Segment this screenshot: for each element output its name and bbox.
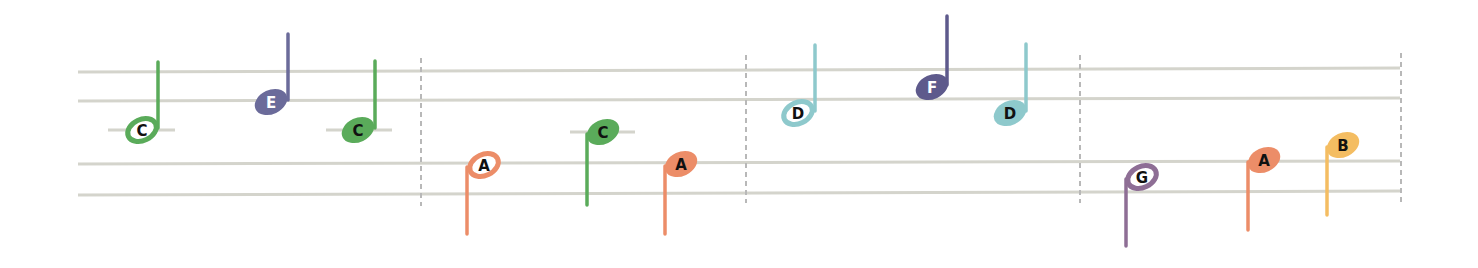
note-letter-label: C	[597, 124, 608, 142]
note-E-quarter: E	[251, 34, 292, 120]
note-letter-label: B	[1337, 137, 1348, 155]
note-A-half: A	[466, 149, 502, 234]
note-letter-label: A	[478, 157, 490, 175]
note-C-half: C	[108, 62, 175, 146]
note-letter-label: D	[1004, 105, 1016, 123]
measure-3: DFD	[780, 16, 1031, 131]
note-letter-label: F	[927, 79, 937, 97]
note-letter-label: A	[675, 156, 687, 174]
staff-lines	[78, 68, 1400, 195]
barlines	[421, 53, 1401, 206]
measure-2: ACA	[466, 114, 702, 234]
note-B-quarter: B	[1323, 127, 1364, 215]
note-letter-label: C	[352, 122, 363, 140]
measure-4: GAB	[1124, 127, 1364, 246]
music-staff: CECACADFDGAB	[0, 0, 1478, 268]
staff-line	[78, 191, 1400, 195]
note-G-half: G	[1124, 161, 1160, 246]
note-letter-label: C	[136, 122, 147, 140]
note-C-quarter: C	[570, 114, 635, 205]
note-letter-label: G	[1136, 169, 1148, 187]
note-F-quarter: F	[912, 16, 953, 105]
notes: CECACADFDGAB	[108, 16, 1363, 246]
note-A-quarter: A	[661, 146, 702, 234]
note-letter-label: A	[1258, 152, 1270, 170]
note-C-quarter: C	[326, 61, 392, 148]
staff-line	[78, 68, 1400, 72]
note-D-quarter: D	[990, 44, 1031, 131]
staff-line	[78, 161, 1400, 164]
note-letter-label: E	[266, 94, 276, 112]
note-A-quarter: A	[1244, 142, 1285, 230]
measure-1: CEC	[108, 34, 392, 148]
note-D-half: D	[780, 45, 816, 129]
note-letter-label: D	[792, 105, 804, 123]
